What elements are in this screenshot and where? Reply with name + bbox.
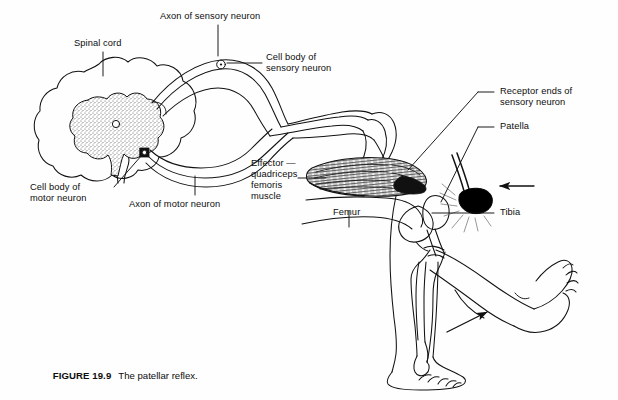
quadriceps-femoris-muscle [306,157,426,196]
label-patella: Patella [500,121,529,132]
label-axon-of-sensory-neuron: Axon of sensory neuron [160,11,260,22]
label-cell-body-of-motor-neuron-line2: motor neuron [30,193,86,204]
label-effector-line1: Effector — [251,158,296,169]
label-axon-of-motor-neuron: Axon of motor neuron [129,199,220,210]
label-effector-line2: quadriceps [251,169,297,180]
label-receptor-ends-line2: sensory neuron [500,97,565,108]
label-effector-line4: muscle [251,191,281,202]
label-receptor-ends-line1: Receptor ends of [500,86,572,97]
label-cell-body-of-motor-neuron-line1: Cell body of [30,182,80,193]
gray-matter [70,93,166,176]
label-spinal-cord: Spinal cord [74,38,122,49]
extended-kicking-leg [430,250,578,332]
leg-motion-arrow [447,312,487,332]
tibia-fibula-bones [411,246,445,375]
label-cell-body-of-sensory-neuron-line2: sensory neuron [266,63,331,74]
figure-number: FIGURE 19.9 [53,370,112,381]
label-cell-body-of-sensory-neuron-line1: Cell body of [266,52,316,63]
label-tibia: Tibia [500,207,520,218]
figure-container: Spinal cord Axon of sensory neuron Cell … [0,0,618,400]
femur-bone [302,197,433,251]
label-effector-line3: femoris [251,180,282,191]
figure-caption: FIGURE 19.9The patellar reflex. [42,359,198,392]
figure-caption-text: The patellar reflex. [118,370,197,381]
label-femur: Femur [333,207,360,218]
